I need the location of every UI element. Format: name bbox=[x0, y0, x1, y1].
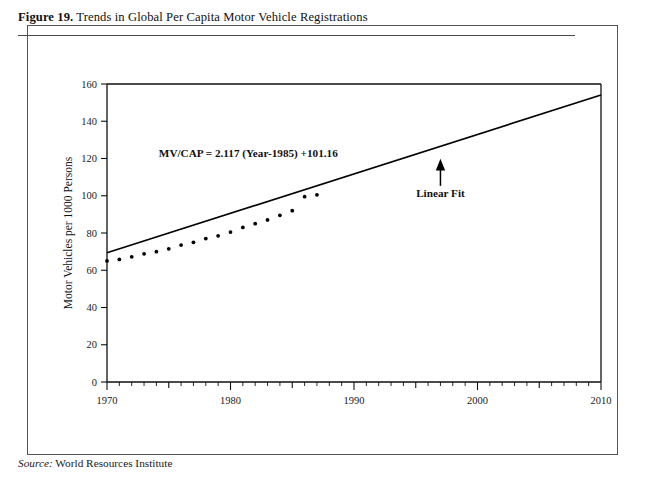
source-text: World Resources Institute bbox=[53, 457, 173, 469]
source-label: Source: bbox=[18, 457, 53, 469]
figure-caption-text: Trends in Global Per Capita Motor Vehicl… bbox=[73, 10, 367, 24]
caption-divider bbox=[18, 35, 575, 36]
source-note: Source: World Resources Institute bbox=[18, 457, 172, 469]
figure-caption: Figure 19. Trends in Global Per Capita M… bbox=[18, 10, 368, 25]
figure-frame bbox=[27, 25, 618, 455]
figure-number: Figure 19. bbox=[18, 10, 73, 24]
